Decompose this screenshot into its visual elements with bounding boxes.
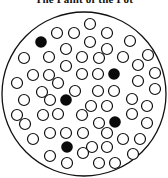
open-dot	[77, 110, 88, 121]
open-dot	[93, 69, 104, 80]
open-dot	[102, 128, 113, 139]
open-dots-group	[12, 19, 161, 169]
open-dot	[102, 44, 113, 55]
filled-dot	[109, 116, 121, 128]
open-dot	[61, 128, 72, 139]
open-dot	[20, 119, 31, 130]
open-dot	[53, 109, 64, 120]
open-dot	[78, 148, 89, 159]
open-dot	[69, 28, 80, 39]
open-dot	[135, 134, 146, 145]
open-dot	[85, 19, 96, 30]
filled-dot	[61, 141, 73, 153]
open-dot	[77, 52, 88, 63]
open-dot	[143, 50, 154, 61]
open-dot	[102, 101, 113, 112]
open-dot	[85, 37, 96, 48]
open-dot	[44, 52, 55, 63]
open-dot	[28, 134, 39, 145]
open-dot	[127, 109, 138, 120]
open-dot	[94, 158, 105, 169]
open-dot	[102, 142, 113, 153]
open-dot	[94, 53, 105, 64]
open-dot	[102, 28, 113, 39]
open-dot	[61, 61, 72, 72]
open-dot	[133, 60, 144, 71]
open-dot	[86, 101, 97, 112]
open-dot	[118, 52, 129, 63]
open-dot	[78, 128, 89, 139]
open-dot	[109, 86, 120, 97]
open-dot	[19, 95, 30, 106]
open-dot	[12, 110, 23, 121]
open-dot	[53, 78, 64, 89]
open-dot	[45, 128, 56, 139]
open-dot	[133, 76, 144, 87]
filled-dot	[108, 68, 120, 80]
open-dot	[94, 118, 105, 129]
open-dot	[45, 151, 56, 162]
filled-dot	[60, 94, 72, 106]
open-dot	[127, 94, 138, 105]
open-dot	[125, 36, 136, 47]
filled-dot	[35, 36, 47, 48]
open-dot	[19, 53, 30, 64]
open-dot	[70, 86, 81, 97]
open-dot	[142, 101, 153, 112]
open-dot	[142, 118, 153, 129]
open-dot	[45, 95, 56, 106]
open-dot	[93, 86, 104, 97]
open-dot	[12, 78, 23, 89]
open-dot	[61, 44, 72, 55]
open-dot	[150, 84, 161, 95]
open-dot	[150, 68, 161, 79]
open-dot	[62, 158, 73, 169]
open-dot	[118, 134, 129, 145]
open-dot	[128, 149, 139, 160]
open-dot	[44, 70, 55, 81]
dot-circle-diagram	[0, 0, 168, 178]
open-dot	[52, 28, 63, 39]
open-dot	[38, 110, 49, 121]
open-dot	[28, 70, 39, 81]
open-dot	[110, 158, 121, 169]
open-dot	[77, 69, 88, 80]
